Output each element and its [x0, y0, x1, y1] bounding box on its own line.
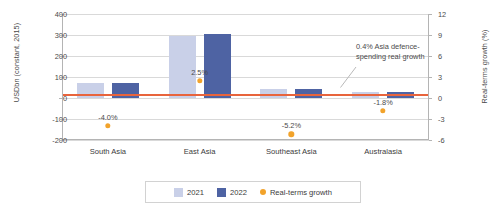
- legend-item-growth[interactable]: Real-terms growth: [260, 188, 332, 197]
- growth-dot-label: -5.2%: [282, 121, 301, 130]
- growth-dot-label: 2.5%: [191, 68, 208, 77]
- y-axis-right-title: Real-terms growth (%): [480, 19, 489, 115]
- y-tick-label-left: 0: [37, 94, 67, 103]
- y-tick-label-left: -200: [37, 136, 67, 145]
- growth-dot: [197, 78, 202, 83]
- x-axis-category-label: South Asia: [90, 147, 126, 156]
- y-tick-label-right: 9: [438, 31, 464, 40]
- bar-2021: [260, 89, 287, 98]
- y-tick-mark-left: [59, 119, 62, 120]
- y-tick-mark-right: [429, 119, 432, 120]
- legend-swatch-2021-icon: [174, 188, 183, 197]
- y-tick-mark-left: [59, 98, 62, 99]
- reference-line: [62, 94, 429, 96]
- y-tick-label-left: -100: [37, 115, 67, 124]
- legend-label-2021: 2021: [187, 188, 204, 197]
- growth-dot: [380, 108, 385, 113]
- legend-label-growth: Real-terms growth: [270, 188, 332, 197]
- y-tick-mark-left: [59, 14, 62, 15]
- plot-area: -4.0%2.5%-5.2%-1.8%: [62, 14, 429, 140]
- gridline: [62, 14, 429, 15]
- y-tick-label-left: 100: [37, 73, 67, 82]
- y-tick-label-left: 300: [37, 31, 67, 40]
- legend-item-2022[interactable]: 2022: [217, 188, 247, 197]
- legend-label-2022: 2022: [230, 188, 247, 197]
- annotation-text: 0.4% Asia defence-spending real growth: [356, 42, 448, 62]
- y-tick-mark-right: [429, 14, 432, 15]
- defence-spending-chart: USDbn (constant, 2015) Real-terms growth…: [0, 0, 499, 211]
- y-tick-mark-left: [59, 56, 62, 57]
- growth-dot: [105, 123, 110, 128]
- y-tick-mark-left: [59, 35, 62, 36]
- bar-2022: [204, 34, 231, 98]
- y-tick-label-right: 0: [438, 94, 464, 103]
- y-tick-label-right: 12: [438, 10, 464, 19]
- growth-dot-label: -1.8%: [373, 98, 392, 107]
- x-axis-category-label: East Asia: [184, 147, 216, 156]
- y-tick-label-left: 200: [37, 52, 67, 61]
- y-tick-mark-right: [429, 77, 432, 78]
- y-tick-mark-left: [59, 77, 62, 78]
- y-tick-label-right: -6: [438, 136, 464, 145]
- y-tick-label-right: 3: [438, 73, 464, 82]
- y-tick-mark-right: [429, 35, 432, 36]
- x-axis-category-label: Southeast Asia: [266, 147, 317, 156]
- x-axis-category-label: Australasia: [364, 147, 402, 156]
- axis-line-bottom: [62, 139, 429, 140]
- y-tick-mark-right: [429, 98, 432, 99]
- y-tick-label-left: 400: [37, 10, 67, 19]
- growth-dot-label: -4.0%: [98, 113, 117, 122]
- y-tick-mark-right: [429, 140, 432, 141]
- y-tick-mark-left: [59, 140, 62, 141]
- legend-item-2021[interactable]: 2021: [174, 188, 204, 197]
- gridline: [62, 35, 429, 36]
- legend-swatch-growth-dot-icon: [260, 189, 266, 195]
- y-axis-left-title: USDbn (constant, 2015): [12, 15, 21, 111]
- y-tick-label-right: -3: [438, 115, 464, 124]
- gridline: [62, 77, 429, 78]
- chart-legend: 2021 2022 Real-terms growth: [145, 181, 361, 203]
- legend-swatch-2022-icon: [217, 188, 226, 197]
- gridline: [62, 140, 429, 141]
- growth-dot: [289, 132, 294, 137]
